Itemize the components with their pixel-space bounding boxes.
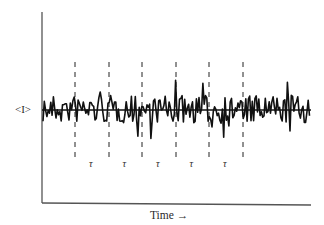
tau-label: τ bbox=[123, 158, 127, 169]
tau-label: τ bbox=[89, 158, 93, 169]
tau-label: τ bbox=[156, 158, 160, 169]
tau-label: τ bbox=[223, 158, 227, 169]
interval-labels: τττττ bbox=[89, 158, 227, 169]
x-axis-label: Time → bbox=[150, 209, 188, 221]
mean-label: <I> bbox=[15, 103, 31, 115]
intensity-fluctuation-diagram: <I> τττττ Time → bbox=[0, 0, 324, 225]
tau-label: τ bbox=[190, 158, 194, 169]
x-axis bbox=[42, 203, 311, 205]
